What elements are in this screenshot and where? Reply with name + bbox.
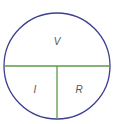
label-voltage: V [54,36,62,47]
ohms-law-diagram: V I R [0,0,115,124]
label-current: I [34,84,37,95]
label-resistance: R [75,84,82,95]
